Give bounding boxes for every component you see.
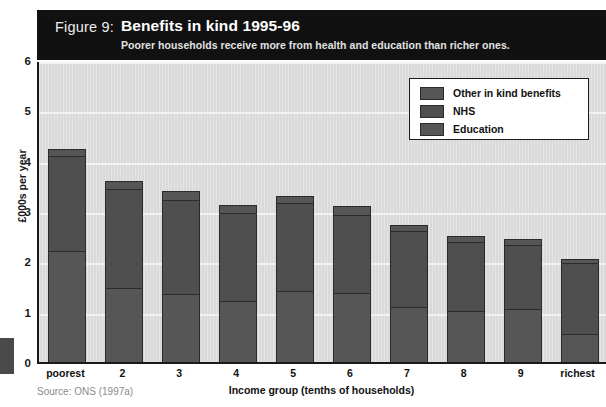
legend-item-education: Education bbox=[420, 120, 588, 138]
bar-segment-other-in-kind-benefits bbox=[333, 206, 371, 215]
bar-segment-other-in-kind-benefits bbox=[276, 196, 314, 205]
bar-segment-other-in-kind-benefits bbox=[48, 149, 86, 157]
figure-header: Figure 9: Benefits in kind 1995-96 Poore… bbox=[37, 10, 606, 60]
bar-segment-nhs bbox=[162, 201, 200, 294]
bar-segment-nhs bbox=[504, 246, 542, 310]
bar-segment-education bbox=[48, 252, 86, 364]
y-axis-title: £000s per year bbox=[16, 116, 28, 256]
source-note: Source: ONS (1997a) bbox=[37, 386, 133, 397]
legend-label-nhs: NHS bbox=[453, 105, 475, 117]
bar-5 bbox=[276, 196, 314, 364]
bar-segment-education bbox=[447, 312, 485, 364]
bar-segment-other-in-kind-benefits bbox=[390, 225, 428, 233]
bar-segment-other-in-kind-benefits bbox=[561, 259, 599, 264]
legend-label-education: Education bbox=[453, 123, 504, 135]
bar-2 bbox=[105, 181, 143, 364]
bar-segment-nhs bbox=[447, 243, 485, 311]
bar-6 bbox=[333, 206, 371, 364]
gridline bbox=[39, 62, 606, 64]
bar-poorest bbox=[48, 149, 86, 364]
bar-segment-other-in-kind-benefits bbox=[447, 236, 485, 243]
y-axis-tick: 4 bbox=[5, 156, 31, 168]
y-axis-tick: 5 bbox=[5, 105, 31, 117]
figure-number: Figure 9: bbox=[55, 19, 114, 35]
figure-title: Benefits in kind 1995-96 bbox=[121, 17, 300, 35]
y-axis-tick: 2 bbox=[5, 256, 31, 268]
bar-segment-education bbox=[162, 295, 200, 364]
bar-segment-nhs bbox=[105, 190, 143, 288]
bar-segment-other-in-kind-benefits bbox=[219, 205, 257, 214]
legend-swatch-other bbox=[420, 87, 444, 100]
y-axis-tick: 6 bbox=[5, 55, 31, 67]
bar-7 bbox=[390, 225, 428, 364]
bar-segment-education bbox=[504, 310, 542, 364]
bar-segment-other-in-kind-benefits bbox=[504, 239, 542, 246]
bar-segment-education bbox=[105, 289, 143, 365]
bar-segment-other-in-kind-benefits bbox=[162, 191, 200, 201]
bar-3 bbox=[162, 191, 200, 364]
bar-8 bbox=[447, 236, 485, 364]
legend-swatch-education bbox=[420, 123, 444, 136]
y-axis-tick: 1 bbox=[5, 307, 31, 319]
bar-segment-nhs bbox=[333, 216, 371, 294]
legend-item-other: Other in kind benefits bbox=[420, 84, 588, 102]
bar-segment-nhs bbox=[276, 204, 314, 292]
legend-label-other: Other in kind benefits bbox=[453, 87, 561, 99]
chart-legend: Other in kind benefits NHS Education bbox=[409, 78, 589, 140]
bar-9 bbox=[504, 239, 542, 364]
bar-segment-education bbox=[333, 294, 371, 364]
figure-subtitle: Poorer households receive more from heal… bbox=[121, 39, 510, 51]
bar-segment-other-in-kind-benefits bbox=[105, 181, 143, 191]
gridline bbox=[39, 163, 606, 165]
bar-segment-nhs bbox=[48, 157, 86, 253]
bar-segment-education bbox=[219, 302, 257, 364]
bar-segment-education bbox=[390, 308, 428, 364]
y-axis-tick: 0 bbox=[5, 357, 31, 369]
bar-segment-education bbox=[276, 292, 314, 364]
bar-segment-nhs bbox=[390, 232, 428, 308]
y-axis-tick: 3 bbox=[5, 206, 31, 218]
bar-segment-nhs bbox=[561, 264, 599, 334]
legend-swatch-nhs bbox=[420, 105, 444, 118]
legend-item-nhs: NHS bbox=[420, 102, 588, 120]
bar-richest bbox=[561, 259, 599, 364]
bar-segment-nhs bbox=[219, 214, 257, 302]
bar-segment-education bbox=[561, 335, 599, 364]
figure-container: Figure 9: Benefits in kind 1995-96 Poore… bbox=[0, 0, 606, 407]
x-axis-tick: richest bbox=[543, 367, 606, 379]
bar-4 bbox=[219, 205, 257, 364]
x-axis-line bbox=[37, 362, 606, 364]
